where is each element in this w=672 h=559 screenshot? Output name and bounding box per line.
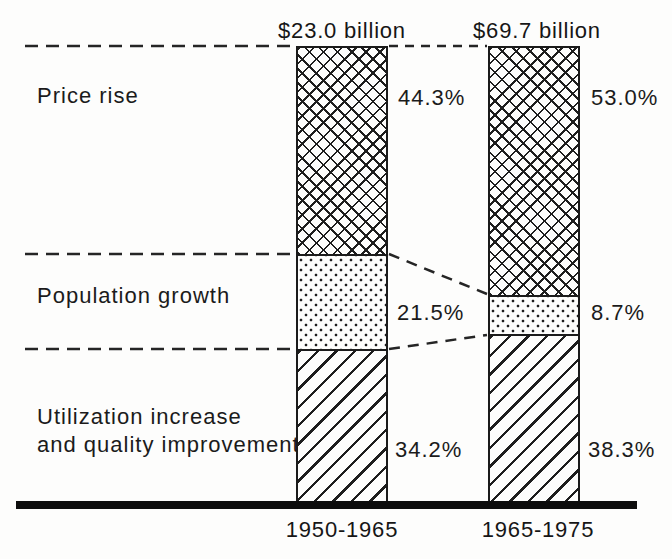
pct-price-rise-bar2: 53.0% xyxy=(591,85,658,111)
pct-utilization-bar2: 38.3% xyxy=(588,437,655,463)
bar-1965-1975 xyxy=(488,46,580,505)
period-label-bar2: 1965-1975 xyxy=(458,517,618,543)
row-label-population-growth: Population growth xyxy=(37,283,230,309)
pct-utilization-bar1: 34.2% xyxy=(395,437,462,463)
segment-price-rise-bar1 xyxy=(298,48,386,254)
connector-low xyxy=(389,335,487,349)
row-label-utilization-line1: Utilization increase xyxy=(37,404,242,429)
segment-utilization-bar2 xyxy=(490,334,578,503)
connector-mid xyxy=(389,254,487,294)
pct-population-growth-bar2: 8.7% xyxy=(591,300,645,326)
segment-population-growth-bar2 xyxy=(490,295,578,334)
stacked-bar-chart-figure: Price rise Population growth Utilization… xyxy=(0,0,672,559)
pct-price-rise-bar1: 44.3% xyxy=(398,85,465,111)
row-label-utilization: Utilization increase and quality improve… xyxy=(37,403,327,459)
total-label-bar1: $23.0 billion xyxy=(262,18,422,44)
pct-population-growth-bar1: 21.5% xyxy=(397,300,464,326)
segment-price-rise-bar2 xyxy=(490,48,578,295)
bar-1950-1965 xyxy=(296,46,388,505)
period-label-bar1: 1950-1965 xyxy=(262,517,422,543)
baseline-axis xyxy=(16,501,637,509)
segment-population-growth-bar1 xyxy=(298,254,386,349)
row-label-utilization-line2: and quality improvement xyxy=(37,432,300,457)
segment-utilization-bar1 xyxy=(298,349,386,503)
total-label-bar2: $69.7 billion xyxy=(457,18,617,44)
row-label-price-rise: Price rise xyxy=(37,83,139,109)
